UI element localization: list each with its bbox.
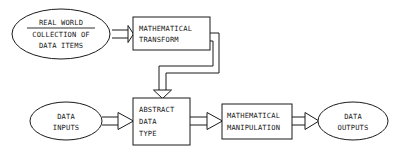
node-abstract-data-type-line-3: TYPE xyxy=(139,129,157,138)
connector-data-inputs-to-abstract-data-type xyxy=(102,113,134,130)
node-mathematical-manipulation-line-2: MANIPULATION xyxy=(227,123,280,132)
node-data-inputs-line-2: INPUTS xyxy=(53,123,80,132)
node-mathematical-manipulation: MATHEMATICAL MANIPULATION xyxy=(222,104,292,139)
node-mathematical-transform-line-1: MATHEMATICAL xyxy=(139,24,192,33)
node-mathematical-transform-line-2: TRANSFORM xyxy=(139,35,179,44)
node-data-inputs: DATA INPUTS xyxy=(30,102,102,140)
node-real-world-line-3: DATA ITEMS xyxy=(39,41,83,50)
node-data-outputs-line-1: DATA xyxy=(344,112,362,121)
connector-manipulation-to-data-outputs xyxy=(292,113,319,130)
connector-real-world-to-transform xyxy=(112,26,134,43)
flowchart-svg: REAL WORLD COLLECTION OF DATA ITEMS MATH… xyxy=(0,0,395,152)
connector-abstract-data-type-to-manipulation xyxy=(190,113,223,130)
node-abstract-data-type-line-1: ABSTRACT xyxy=(139,105,175,114)
node-abstract-data-type: ABSTRACT DATA TYPE xyxy=(133,98,190,145)
node-mathematical-manipulation-line-1: MATHEMATICAL xyxy=(227,111,280,120)
node-abstract-data-type-line-2: DATA xyxy=(139,117,157,126)
node-mathematical-transform: MATHEMATICAL TRANSFORM xyxy=(133,17,210,50)
node-data-inputs-line-1: DATA xyxy=(57,112,75,121)
node-real-world-line-1: REAL WORLD xyxy=(39,18,83,27)
node-data-outputs: DATA OUTPUTS xyxy=(318,102,388,140)
node-real-world: REAL WORLD COLLECTION OF DATA ITEMS xyxy=(12,9,110,59)
node-real-world-line-2: COLLECTION OF xyxy=(32,30,89,39)
diagram-canvas: REAL WORLD COLLECTION OF DATA ITEMS MATH… xyxy=(0,0,395,152)
node-data-outputs-line-2: OUTPUTS xyxy=(338,123,369,132)
